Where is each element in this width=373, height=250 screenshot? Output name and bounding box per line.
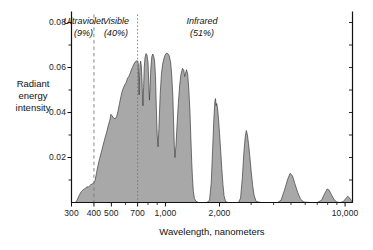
band-label-infrared-percent: (51%) — [152, 28, 252, 40]
band-label-visible-name: Visible — [66, 16, 166, 28]
y-tick-label: 0.04 — [26, 107, 66, 117]
spectrum-area-curve — [72, 53, 353, 202]
spectrum-chart-figure: Radiant energy intensity Wavelength, nan… — [0, 0, 373, 250]
band-label-visible: Visible(40%) — [66, 16, 166, 39]
y-tick-label: 0.02 — [26, 152, 66, 162]
band-label-infrared: Infrared(51%) — [152, 16, 252, 39]
y-tick-label: 0.06 — [26, 62, 66, 72]
x-tick-label: 10,000 — [317, 208, 373, 218]
band-label-visible-percent: (40%) — [66, 28, 166, 40]
x-axis-label: Wavelength, nanometers — [71, 226, 353, 237]
x-tick-label: 2,000 — [192, 208, 248, 218]
band-label-infrared-name: Infrared — [152, 16, 252, 28]
x-tick-label: 1,000 — [137, 208, 193, 218]
